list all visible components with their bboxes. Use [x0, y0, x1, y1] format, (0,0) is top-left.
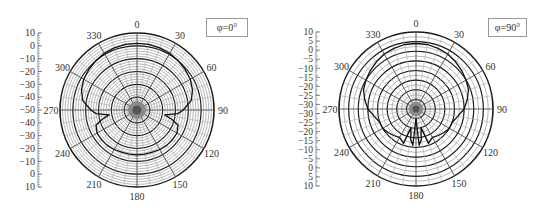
- radial-tick-label: −30: [19, 79, 35, 90]
- radial-tick-label: −50: [19, 104, 35, 115]
- angle-tick-label: 330: [366, 29, 381, 40]
- angle-tick-label: 60: [485, 61, 495, 72]
- radial-tick-label: −10: [19, 53, 35, 64]
- legend-phi-90: φ=90°: [488, 18, 527, 37]
- radial-tick-label: 0: [30, 168, 35, 179]
- angle-tick-label: 240: [55, 148, 70, 159]
- radial-tick-label: 10: [25, 181, 35, 192]
- radial-tick-label: −20: [19, 143, 35, 154]
- angle-tick-label: 30: [454, 29, 464, 40]
- radial-tick-label: −40: [19, 117, 35, 128]
- radial-tick-label: −40: [19, 91, 35, 102]
- angle-tick-label: 150: [452, 178, 467, 189]
- radial-tick-label: 10: [25, 27, 35, 38]
- angle-tick-label: 0: [135, 19, 140, 30]
- angle-tick-label: 300: [55, 62, 70, 73]
- angle-tick-label: 120: [204, 148, 219, 159]
- angle-tick-label: 90: [497, 104, 507, 115]
- angle-tick-label: 180: [130, 191, 145, 202]
- angle-tick-label: 150: [173, 179, 188, 190]
- angle-tick-label: 90: [218, 105, 228, 116]
- polar-chart-phi-90: 03060901201501802102402703003301050−5−10…: [272, 0, 545, 213]
- angle-tick-label: 210: [366, 178, 381, 189]
- radial-tick-label: −10: [19, 156, 35, 167]
- polar-chart-phi-0: 0306090120150180210240270300330100−10−20…: [0, 0, 272, 213]
- angle-tick-label: 270: [323, 104, 338, 115]
- radial-tick-label: 0: [30, 40, 35, 51]
- angle-tick-label: 300: [334, 61, 349, 72]
- angle-tick-label: 120: [483, 147, 498, 158]
- angle-tick-label: 180: [409, 190, 424, 201]
- angle-tick-label: 60: [206, 62, 216, 73]
- polar-grid: [60, 33, 214, 187]
- legend-phi-0: φ=0°: [206, 18, 248, 37]
- angle-tick-label: 30: [175, 30, 185, 41]
- angle-tick-label: 270: [44, 105, 59, 116]
- angle-tick-label: 240: [334, 147, 349, 158]
- radial-tick-label: −30: [19, 130, 35, 141]
- radial-tick-label: 10: [304, 181, 314, 191]
- polar-grid: [339, 32, 493, 186]
- radial-tick-label: −20: [19, 66, 35, 77]
- angle-tick-label: 210: [87, 179, 102, 190]
- angle-tick-label: 0: [414, 18, 419, 29]
- angle-tick-label: 330: [87, 30, 102, 41]
